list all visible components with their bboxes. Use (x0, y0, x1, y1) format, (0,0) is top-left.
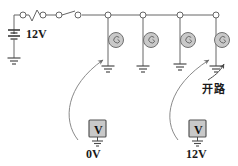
voltmeter-left-reading-label: 0V (86, 148, 101, 160)
voltmeter-left-glyph: V (94, 124, 103, 136)
battery-symbol (8, 30, 20, 58)
fuse-symbol (29, 10, 40, 21)
rail-node (56, 12, 62, 18)
voltmeter-right-glyph: V (194, 124, 203, 136)
ground-symbol (137, 66, 150, 72)
circuit-diagram: 12V 开路 V V 0V 12V (0, 0, 238, 166)
lamp-icon (109, 33, 124, 48)
branch-lamp-4 (210, 18, 230, 72)
lamp-icon (144, 33, 159, 48)
rail-node (20, 12, 26, 18)
open-circuit-annotation-label: 开路 (202, 84, 225, 95)
switch-blade (62, 11, 75, 15)
rail-node (75, 12, 81, 18)
branch-lamp-2 (137, 18, 159, 72)
ground-symbol (102, 66, 115, 72)
rail-node (40, 12, 46, 18)
battery-ground-symbol (8, 58, 21, 64)
rail-node-branch-1 (105, 12, 111, 18)
branch-lamp-3 (174, 18, 196, 70)
lamp-icon (215, 33, 230, 48)
ground-symbol (174, 64, 187, 70)
voltmeter-right-reading-label: 12V (186, 148, 207, 160)
lamp-icon (181, 33, 196, 48)
rail-node-branch-2 (140, 12, 146, 18)
source-voltage-label: 12V (26, 28, 47, 40)
rail-node-branch-4 (213, 12, 219, 18)
rail-node-branch-3 (177, 12, 183, 18)
branch-lamp-1 (102, 18, 124, 72)
